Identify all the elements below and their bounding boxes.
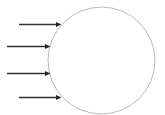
incident-rays-group <box>7 25 61 98</box>
diagram-canvas <box>0 0 165 115</box>
sphere-circle <box>48 7 155 114</box>
